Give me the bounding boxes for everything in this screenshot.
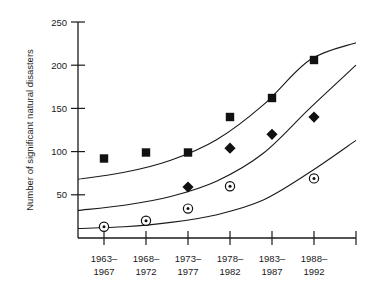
x-tick-label-3-line1: 1978– (217, 253, 244, 264)
y-tick-label-250: 250 (51, 17, 67, 28)
fit-curves-layer (78, 43, 356, 229)
y-tick-label-50: 50 (56, 189, 67, 200)
data-point-circle-dot (313, 177, 316, 180)
natural-disasters-scatter-chart: Number of significant natural disasters … (0, 0, 379, 281)
data-point-square (184, 148, 192, 156)
data-point-circle-dot (187, 207, 190, 210)
chart-figure: Number of significant natural disasters … (0, 0, 379, 281)
data-point-square (268, 94, 276, 102)
y-axis-tick-labels: 250 200 150 100 50 (51, 17, 67, 201)
x-tick-label-1-line2: 1972 (135, 266, 156, 277)
data-point-diamond (308, 111, 319, 122)
x-tick-label-3-line2: 1982 (219, 266, 240, 277)
x-axis-tick-labels: 1963– 1967 1968– 1972 1973– 1977 1978– 1… (91, 253, 328, 277)
data-point-square (142, 148, 150, 156)
x-tick-label-4-line2: 1987 (261, 266, 282, 277)
y-tick-label-100: 100 (51, 146, 67, 157)
fit-curve-middle-series (78, 65, 356, 210)
x-tick-label-4-line1: 1983– (259, 253, 286, 264)
data-point-square (310, 56, 318, 64)
data-point-diamond (266, 129, 277, 140)
data-point-circle-dot (145, 219, 148, 222)
y-tick-label-200: 200 (51, 60, 67, 71)
x-tick-label-5-line1: 1988– (301, 253, 328, 264)
data-point-square (100, 154, 108, 162)
x-tick-label-0-line2: 1967 (93, 266, 114, 277)
y-tick-label-150: 150 (51, 103, 67, 114)
x-tick-label-0-line1: 1963– (91, 253, 118, 264)
x-tick-label-5-line2: 1992 (303, 266, 324, 277)
data-point-circle-dot (103, 225, 106, 228)
x-tick-label-2-line1: 1973– (175, 253, 202, 264)
x-tick-label-2-line2: 1977 (177, 266, 198, 277)
fit-curve-lower-series (78, 140, 356, 228)
data-point-diamond (224, 143, 235, 154)
x-tick-label-1-line1: 1968– (133, 253, 160, 264)
data-point-square (226, 113, 234, 121)
data-point-circle-dot (229, 185, 232, 188)
y-axis-title: Number of significant natural disasters (24, 49, 35, 211)
